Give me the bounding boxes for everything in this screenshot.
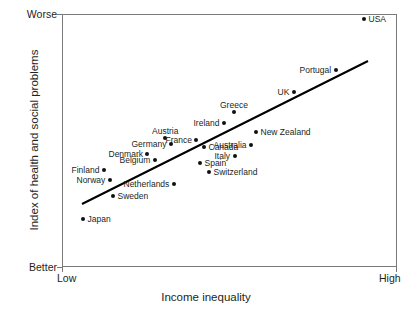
data-point-label: Sweden <box>118 191 149 201</box>
y-axis-label-better: Better <box>29 261 57 273</box>
x-axis-label-low: Low <box>57 272 76 284</box>
data-point[interactable] <box>233 154 237 158</box>
x-axis-label-high: High <box>379 272 401 284</box>
x-axis-title: Income inequality <box>0 291 412 303</box>
data-point[interactable] <box>292 90 296 94</box>
data-point-label: Portugal <box>300 65 332 75</box>
data-point-label: France <box>166 135 192 145</box>
data-point[interactable] <box>198 161 202 165</box>
y-axis-label-worse: Worse <box>27 8 57 20</box>
data-point[interactable] <box>108 178 112 182</box>
data-point-label: Netherlands <box>124 179 170 189</box>
data-point-label: Belgium <box>120 155 151 165</box>
data-point-label: Finland <box>72 165 100 175</box>
data-point[interactable] <box>222 121 226 125</box>
data-point[interactable] <box>249 143 253 147</box>
data-point-label: Greece <box>220 100 248 110</box>
y-axis-title: Index of health and social problems <box>28 20 40 260</box>
scatter-chart-figure: Worse Better Low High Income inequality … <box>0 0 412 315</box>
data-point[interactable] <box>102 168 106 172</box>
data-point-label: Norway <box>77 175 106 185</box>
data-point[interactable] <box>254 130 258 134</box>
data-point-label: New Zealand <box>261 127 311 137</box>
data-point[interactable] <box>194 138 198 142</box>
y-axis-tick-worse <box>57 14 62 15</box>
data-point[interactable] <box>172 182 176 186</box>
data-point-label: Australia <box>214 140 247 150</box>
data-point[interactable] <box>207 170 211 174</box>
data-point[interactable] <box>111 194 115 198</box>
data-point-label: Japan <box>88 214 111 224</box>
data-point-label: USA <box>369 14 386 24</box>
data-point-label: UK <box>278 87 290 97</box>
data-point[interactable] <box>202 145 206 149</box>
data-point[interactable] <box>81 217 85 221</box>
data-point[interactable] <box>334 68 338 72</box>
data-point[interactable] <box>232 110 236 114</box>
data-point[interactable] <box>362 17 366 21</box>
data-point-label: Italy <box>215 151 231 161</box>
data-point-label: Ireland <box>194 118 220 128</box>
data-point[interactable] <box>153 158 157 162</box>
data-point-label: Switzerland <box>214 167 258 177</box>
data-point-label: Germany <box>132 139 167 149</box>
